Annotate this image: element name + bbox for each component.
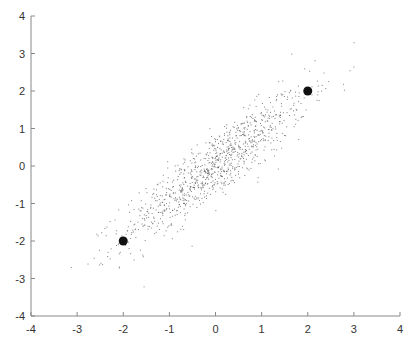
x-tick-label: -3 — [72, 323, 82, 335]
y-tick-label: 2 — [19, 85, 25, 97]
x-tick-label: 0 — [212, 323, 218, 335]
x-tick-label: 3 — [351, 323, 357, 335]
y-tick-label: -3 — [15, 273, 25, 285]
y-tick-label: -2 — [15, 235, 25, 247]
y-axis-ticks: -4-3-2-101234 — [15, 10, 35, 322]
x-axis-ticks: -4-3-2-101234 — [26, 312, 403, 335]
x-tick-label: -4 — [26, 323, 36, 335]
y-tick-label: 3 — [19, 48, 25, 60]
highlighted-point — [119, 237, 128, 246]
x-tick-label: -2 — [118, 323, 128, 335]
y-tick-label: -1 — [15, 198, 25, 210]
highlighted-points — [119, 87, 313, 246]
x-tick-label: 1 — [259, 323, 265, 335]
x-tick-label: 2 — [305, 323, 311, 335]
scatter-chart: -4-3-2-101234 -4-3-2-101234 — [0, 0, 415, 351]
x-tick-label: 4 — [397, 323, 403, 335]
x-tick-label: -1 — [164, 323, 174, 335]
y-tick-label: 0 — [19, 160, 25, 172]
highlighted-point — [303, 87, 312, 96]
y-tick-label: -4 — [15, 310, 25, 322]
y-tick-label: 1 — [19, 123, 25, 135]
scatter-points — [71, 42, 355, 287]
y-tick-label: 4 — [19, 10, 25, 22]
